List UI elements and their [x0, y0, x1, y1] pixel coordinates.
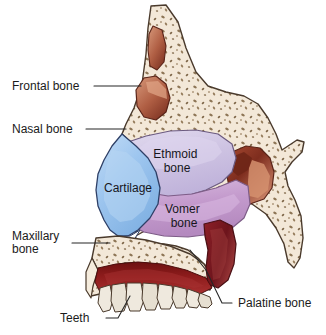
- label-maxillary-bone: Maxillary bone: [12, 229, 63, 256]
- label-cartilage: Cartilage: [104, 181, 152, 195]
- nasal-septum-diagram: Frontal bone Nasal bone Maxillary bone T…: [0, 0, 326, 335]
- label-palatine-bone: Palatine bone: [238, 296, 312, 310]
- label-teeth: Teeth: [60, 311, 89, 325]
- label-vomer-line1: Vomer: [165, 202, 200, 216]
- anatomy-figure: Frontal bone Nasal bone Maxillary bone T…: [0, 0, 326, 335]
- label-vomer-bone: Vomer bone: [165, 202, 203, 230]
- label-vomer-line2: bone: [171, 216, 198, 230]
- label-nasal-bone: Nasal bone: [12, 122, 73, 136]
- label-frontal-bone: Frontal bone: [12, 79, 80, 93]
- label-maxillary-line2: bone: [12, 242, 39, 256]
- label-ethmoid-line1: Ethmoid: [153, 147, 197, 161]
- label-ethmoid-line2: bone: [164, 161, 191, 175]
- label-maxillary-line1: Maxillary: [12, 229, 59, 243]
- palatine-bone-region[interactable]: [204, 220, 236, 288]
